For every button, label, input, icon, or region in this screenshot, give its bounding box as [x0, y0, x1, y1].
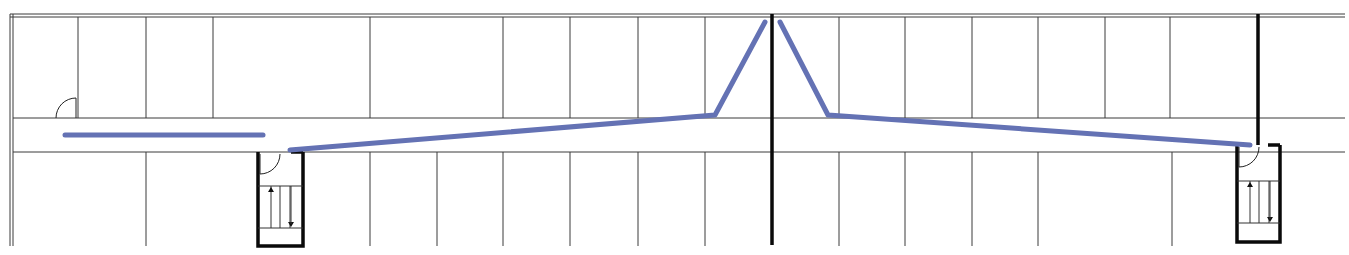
route-west-to-center — [290, 22, 765, 150]
arrow-up-icon — [1247, 182, 1253, 187]
door-swing-arc — [260, 154, 280, 174]
east-stairwell-icon — [1237, 145, 1280, 242]
door-swing-arc — [1239, 147, 1259, 167]
route-center-to-east — [780, 22, 1250, 145]
west-stairwell-icon — [258, 152, 303, 246]
upper-left-room-door-icon — [56, 98, 76, 118]
arrow-up-icon — [268, 187, 274, 192]
outer-walls — [10, 14, 1345, 246]
doors — [56, 98, 76, 118]
floor-plan — [0, 0, 1349, 255]
evacuation-routes — [65, 22, 1250, 150]
stairwells — [258, 145, 1280, 246]
lower-room-dividers — [146, 152, 1172, 246]
upper-room-dividers — [78, 17, 1170, 118]
door-swing-arc — [56, 98, 76, 118]
